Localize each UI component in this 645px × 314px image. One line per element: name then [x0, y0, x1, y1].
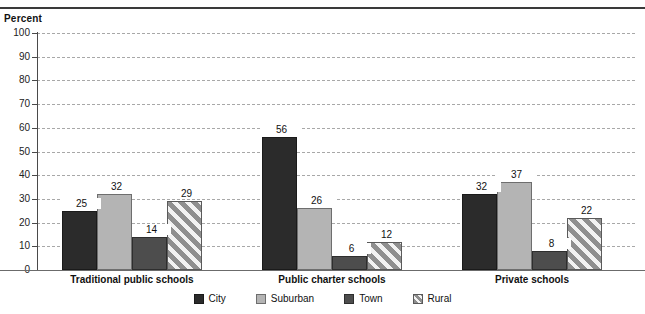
- legend-label: Rural: [428, 293, 452, 304]
- gridline: [37, 57, 635, 58]
- bar-value-label: 32: [462, 181, 501, 192]
- bar-town-1: [132, 237, 167, 270]
- bar-value-label: 8: [532, 238, 571, 249]
- y-axis-tick-label-wrap: 90: [0, 51, 30, 63]
- chart-legend: CitySuburbanTownRural: [0, 293, 645, 304]
- y-axis-tick-label: 70: [4, 98, 30, 109]
- plot-area: 1009080706050403020100 25321429562661232…: [0, 0, 645, 314]
- y-axis-tick-label-wrap: 30: [0, 193, 30, 205]
- bar-value-label: 32: [97, 181, 136, 192]
- y-axis-tick-label-wrap: 60: [0, 122, 30, 134]
- bar-suburban-3: [497, 182, 532, 270]
- bar-rural-1: [167, 201, 202, 270]
- group-label-3: Private schools: [442, 274, 622, 285]
- y-axis-tick-label-wrap: 10: [0, 240, 30, 252]
- y-axis-tick-label-wrap: 70: [0, 98, 30, 110]
- bar-value-label: 56: [262, 124, 301, 135]
- y-axis-tick-label: 100: [4, 27, 30, 38]
- bar-suburban-2: [297, 208, 332, 270]
- bar-value-label: 37: [497, 169, 536, 180]
- y-axis-tick-label: 10: [4, 240, 30, 251]
- gridline: [37, 128, 635, 129]
- legend-item-city[interactable]: City: [194, 293, 226, 304]
- y-axis-tick-label: 40: [4, 169, 30, 180]
- bar-city-1: [62, 211, 97, 270]
- bar-value-label: 22: [567, 205, 606, 216]
- y-axis-tick-label: 20: [4, 217, 30, 228]
- gridline: [37, 104, 635, 105]
- bar-suburban-1: [97, 194, 132, 270]
- bar-city-2: [262, 137, 297, 270]
- legend-item-town[interactable]: Town: [344, 293, 382, 304]
- gridline: [37, 152, 635, 153]
- bar-value-label: 26: [297, 195, 336, 206]
- legend-label: Suburban: [271, 293, 314, 304]
- y-axis-tick-label-wrap: 100: [0, 27, 30, 39]
- bar-value-label: 29: [167, 188, 206, 199]
- y-axis-tick-label-wrap: 80: [0, 74, 30, 86]
- bar-town-2: [332, 256, 367, 270]
- legend-label: City: [209, 293, 226, 304]
- group-label-1: Traditional public schools: [42, 274, 222, 285]
- y-axis-tick-label: 80: [4, 74, 30, 85]
- gridline: [37, 175, 635, 176]
- y-axis-tick-label-wrap: 20: [0, 217, 30, 229]
- legend-swatch-town-icon: [344, 294, 354, 304]
- y-axis-line: [37, 32, 38, 271]
- legend-item-rural[interactable]: Rural: [413, 293, 452, 304]
- y-axis-tick-label: 90: [4, 51, 30, 62]
- gridline: [37, 33, 635, 34]
- legend-label: Town: [359, 293, 382, 304]
- bar-rural-2: [367, 242, 402, 270]
- bar-rural-3: [567, 218, 602, 270]
- bar-value-label: 12: [367, 229, 406, 240]
- bar-town-3: [532, 251, 567, 270]
- legend-swatch-city-icon: [194, 294, 204, 304]
- y-axis-tick-label: 60: [4, 122, 30, 133]
- bar-value-label: 25: [62, 198, 101, 209]
- legend-swatch-suburban-icon: [256, 294, 266, 304]
- y-axis-tick-label-wrap: 50: [0, 146, 30, 158]
- legend-item-suburban[interactable]: Suburban: [256, 293, 314, 304]
- y-axis-tick-label: 50: [4, 146, 30, 157]
- legend-swatch-rural-icon: [413, 294, 423, 304]
- y-axis-tick-label: 30: [4, 193, 30, 204]
- bar-value-label: 14: [132, 224, 171, 235]
- chart-canvas: Percent 1009080706050403020100 253214295…: [0, 0, 645, 314]
- x-axis-baseline: [0, 270, 645, 271]
- bar-city-3: [462, 194, 497, 270]
- group-label-2: Public charter schools: [242, 274, 422, 285]
- bar-value-label: 6: [332, 243, 371, 254]
- y-axis-tick-label-wrap: 40: [0, 169, 30, 181]
- gridline: [37, 80, 635, 81]
